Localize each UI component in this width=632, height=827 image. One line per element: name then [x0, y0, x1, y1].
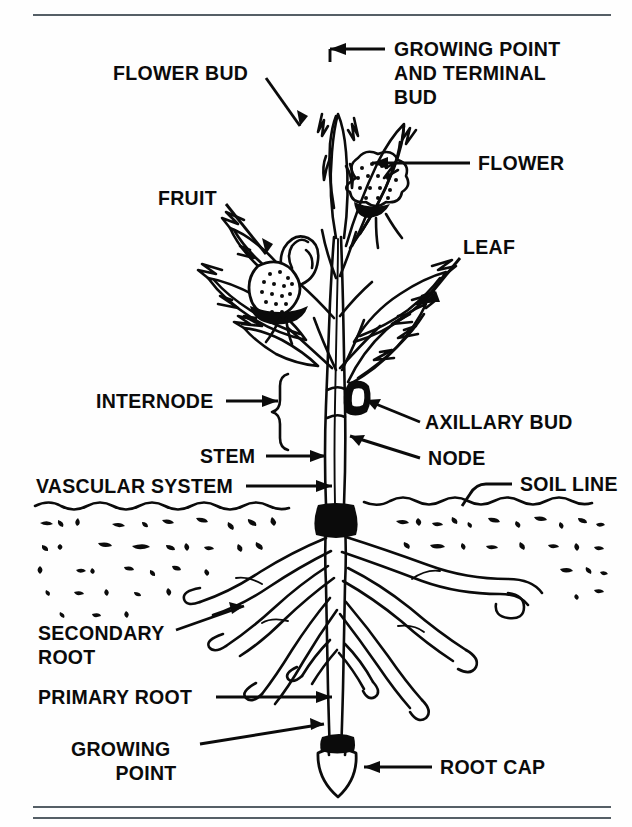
label-primary-root: PRIMARY ROOT — [38, 686, 192, 708]
terminal-bud — [318, 114, 358, 238]
leader-root-cap — [364, 761, 432, 773]
label-growing-point-root-line2: POINT — [115, 762, 176, 784]
leader-internode — [226, 395, 278, 407]
top-divider-rule — [33, 14, 611, 16]
leader-stem — [266, 450, 326, 462]
upper-right-leaf — [346, 124, 416, 248]
bottom-divider-rule-1 — [33, 806, 611, 808]
leader-vascular-system — [246, 480, 332, 492]
label-node: NODE — [428, 447, 486, 469]
leader-flower-bud — [266, 78, 308, 126]
axillary-bud-shape — [344, 381, 371, 416]
label-axillary-bud: AXILLARY BUD — [425, 411, 573, 433]
label-growing-point-terminal-bud-line1: GROWING POINT — [394, 38, 560, 60]
node-and-axillary-bud — [327, 381, 371, 418]
foliage-group — [198, 114, 456, 384]
leader-growing-point-root — [200, 718, 324, 744]
label-growing-point-root-line1: GROWING — [71, 738, 171, 760]
leader-secondary-root — [176, 602, 244, 630]
plant-diagram-svg: GROWING POINT AND TERMINAL BUD FLOWER FL… — [0, 18, 632, 806]
label-secondary-root-line1: SECONDARY — [38, 622, 165, 644]
leader-node — [350, 435, 420, 458]
label-internode: INTERNODE — [96, 390, 214, 412]
leader-growing-point-terminal-bud — [330, 43, 385, 62]
cropped-header-text — [33, 0, 611, 8]
leader-primary-root — [216, 691, 332, 703]
figure-page: GROWING POINT AND TERMINAL BUD FLOWER FL… — [0, 0, 632, 827]
label-fruit: FRUIT — [158, 187, 217, 209]
label-secondary-root-line2: ROOT — [38, 646, 96, 668]
bottom-divider-rule-2 — [33, 817, 611, 819]
label-vascular-system: VASCULAR SYSTEM — [36, 475, 233, 497]
leader-flower — [372, 157, 470, 169]
label-leaf: LEAF — [463, 236, 515, 258]
label-stem: STEM — [200, 445, 255, 467]
label-growing-point-terminal-bud-line3: BUD — [394, 86, 437, 108]
label-flower: FLOWER — [478, 152, 564, 174]
label-flower-bud: FLOWER BUD — [113, 62, 248, 84]
leader-leaf — [424, 258, 460, 302]
plant-diagram: GROWING POINT AND TERMINAL BUD FLOWER FL… — [0, 18, 632, 806]
label-root-cap: ROOT CAP — [440, 756, 545, 778]
internode-brace — [272, 374, 288, 450]
leader-axillary-bud — [366, 399, 420, 422]
label-growing-point-terminal-bud-line2: AND TERMINAL — [394, 62, 546, 84]
label-soil-line: SOIL LINE — [520, 473, 618, 495]
